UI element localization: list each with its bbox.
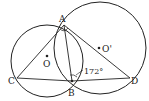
center-point-O-prime [98,47,101,50]
segment-BD [72,78,130,81]
segment-CB [17,78,72,81]
label-O: O [43,59,50,69]
label-D: D [131,76,138,86]
label-C: C [8,76,15,86]
angle-label: 172° [84,67,103,76]
center-point-O [46,55,49,58]
point-B [71,80,74,83]
label-B: B [68,88,75,98]
angle-leader [76,70,83,75]
label-A: A [58,14,66,24]
geometry-diagram: A B C D O O' 172° [0,0,149,101]
label-O-prime: O' [102,44,112,54]
